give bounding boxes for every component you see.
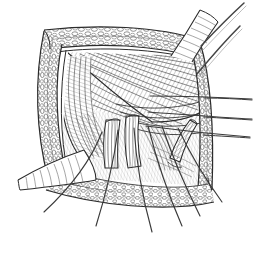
tubular-structure-center-2 xyxy=(125,115,141,168)
illustration-canvas xyxy=(0,0,268,256)
tubular-structure-center xyxy=(104,119,120,168)
surgical-illustration-figure: Surgical Exposure Line Drawing Pen-and-i… xyxy=(0,0,268,256)
